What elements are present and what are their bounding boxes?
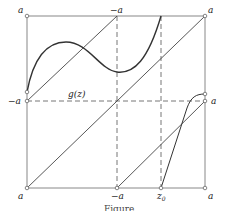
curve-g	[27, 16, 161, 92]
label-top-right: a	[208, 5, 213, 15]
label-bottom-right: a	[208, 191, 213, 201]
label-bottom-mid: −a	[111, 191, 124, 201]
label-bottom-z0: z0	[156, 191, 166, 202]
diagonal-main	[27, 16, 205, 188]
label-bottom-left: a	[18, 191, 23, 201]
label-curve-g: g(z)	[68, 89, 86, 99]
figure-caption: Figure	[104, 204, 134, 211]
label-top-mid: −a	[110, 5, 123, 15]
label-left-mid: −a	[8, 96, 21, 106]
label-top-left: a	[18, 5, 23, 15]
label-right-mid: a	[211, 96, 216, 106]
diagram-canvas: a −a a −a a a −a z0 a g(z) Figure	[0, 0, 230, 211]
